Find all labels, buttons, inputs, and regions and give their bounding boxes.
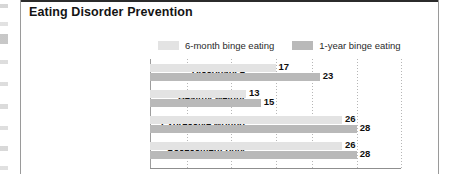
legend-item-label: 6-month binge eating <box>185 40 274 51</box>
chart-row: Dissonance1723 <box>150 63 401 83</box>
bar-year <box>150 125 357 133</box>
legend-item-label: 1-year binge eating <box>319 40 400 51</box>
bar-value-label: 26 <box>345 139 356 150</box>
legend-swatch-one-year <box>292 41 313 50</box>
bar-value-label: 28 <box>360 122 371 133</box>
bar-value-label: 26 <box>345 113 356 124</box>
bar-value-label: 28 <box>360 148 371 159</box>
bar-six <box>150 142 342 150</box>
bar-value-label: 17 <box>279 61 290 72</box>
bar-year <box>150 99 261 107</box>
bar-six <box>150 64 276 72</box>
bar-six <box>150 116 342 124</box>
frame-left-rule <box>20 0 21 174</box>
legend-item: 1-year binge eating <box>292 40 400 51</box>
bar-six <box>150 90 246 98</box>
chart-row: Healthy weight1315 <box>150 89 401 109</box>
chart-row: Expressive writing2628 <box>150 115 401 135</box>
chart-legend: 6-month binge eating1-year binge eating <box>158 40 401 51</box>
figure-title: Eating Disorder Prevention <box>29 5 193 19</box>
frame-top-rule <box>21 0 438 2</box>
figure-panel: Eating Disorder Prevention 6-month binge… <box>0 0 461 174</box>
bar-year <box>150 73 320 81</box>
legend-swatch-six-month <box>158 41 179 50</box>
frame-right-rule <box>438 0 439 174</box>
legend-item: 6-month binge eating <box>158 40 274 51</box>
bar-value-label: 15 <box>264 96 275 107</box>
plot-area: Dissonance1723Healthy weight1315Expressi… <box>150 59 401 169</box>
chart-row: Assessment only2628 <box>150 141 401 161</box>
bar-year <box>150 151 357 159</box>
bar-value-label: 23 <box>323 70 334 81</box>
scan-edge-artifact <box>0 0 8 174</box>
bar-value-label: 13 <box>249 87 260 98</box>
gridline <box>401 59 402 169</box>
